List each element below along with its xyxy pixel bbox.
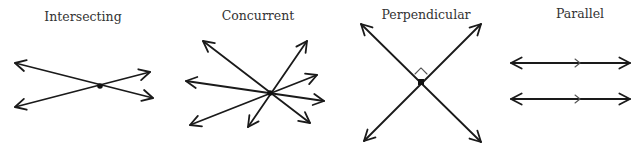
concurrent-title: Concurrent xyxy=(222,8,295,23)
perpendicular-title: Perpendicular xyxy=(381,7,470,22)
line xyxy=(186,81,324,101)
parallel-title: Parallel xyxy=(556,6,604,21)
line xyxy=(15,72,150,107)
intersecting-diagram: Intersecting xyxy=(15,9,153,110)
intersecting-lines xyxy=(15,60,153,110)
parallel-diagram: Parallel xyxy=(511,6,630,105)
arrowhead-icon xyxy=(248,115,259,127)
arrowhead-icon xyxy=(296,41,307,53)
right-angle-marker-icon xyxy=(415,68,427,74)
intersection-point-icon xyxy=(97,83,103,89)
intersecting-title: Intersecting xyxy=(44,9,121,24)
intersection-point-icon xyxy=(267,90,273,96)
line xyxy=(203,41,310,123)
parallel-lines xyxy=(511,57,630,104)
concurrent-diagram: Concurrent xyxy=(186,8,324,127)
concurrent-lines xyxy=(186,41,324,127)
line xyxy=(15,63,153,98)
line-relationships-diagram: Intersecting Concurrent Perpendicular Pa… xyxy=(0,0,643,150)
perpendicular-diagram: Perpendicular xyxy=(361,7,481,142)
perpendicular-lines xyxy=(361,24,481,142)
intersection-point-icon xyxy=(418,79,424,85)
